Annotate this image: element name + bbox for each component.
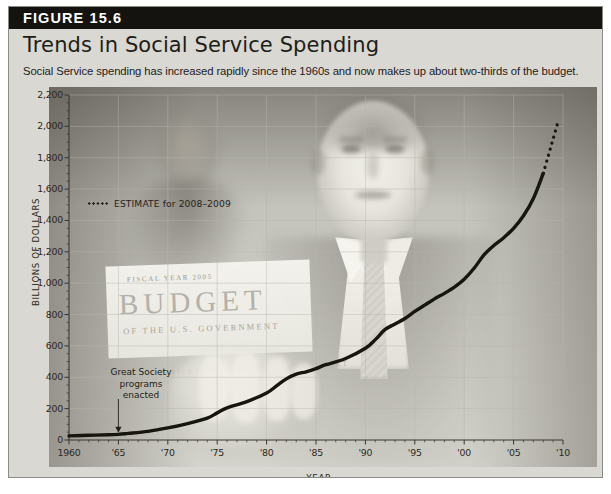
y-axis-tick-label: 2,200 <box>15 89 63 100</box>
x-axis-tick-label: '85 <box>294 447 338 458</box>
y-axis-tick-label: 0 <box>15 434 63 445</box>
figure-card: FISCAL YEAR 2005 BUDGET OF THE U.S. GOVE… <box>8 6 603 478</box>
x-axis-tick-label: '95 <box>393 447 437 458</box>
page-title: Trends in Social Service Spending <box>23 33 379 57</box>
x-axis-tick-label: '10 <box>541 447 585 458</box>
y-axis-tick-label: 1,800 <box>15 152 63 163</box>
photo-ear-left <box>311 149 325 175</box>
estimate-dotted-line-swatch <box>87 202 109 205</box>
x-axis-tick-label: '75 <box>195 447 239 458</box>
y-axis-tick-label: 2,000 <box>15 120 63 131</box>
annotation-line-3: enacted <box>95 390 187 402</box>
y-axis-tick-label: 200 <box>15 403 63 414</box>
background-photo: FISCAL YEAR 2005 BUDGET OF THE U.S. GOVE… <box>49 87 597 467</box>
photo-brow-left <box>339 137 363 142</box>
y-axis-tick-label: 600 <box>15 340 63 351</box>
photo-mouth <box>355 191 391 199</box>
photo-nose <box>367 153 379 179</box>
x-axis-tick-label: '05 <box>492 447 536 458</box>
figure-number-bar: FIGURE 15.6 <box>9 7 603 29</box>
photo-book-budget-text: BUDGET <box>118 282 309 323</box>
x-axis-tick-label: '65 <box>96 447 140 458</box>
annotation-line-1: Great Society <box>95 367 187 379</box>
photo-finger-2 <box>231 353 261 423</box>
photo-hair <box>319 93 427 151</box>
photo-eye-left <box>341 145 361 153</box>
great-society-annotation: Great Society programs enacted <box>95 367 187 402</box>
photo-brow-right <box>383 137 407 142</box>
x-axis-tick-label: '80 <box>245 447 289 458</box>
x-axis-tick-label: '70 <box>146 447 190 458</box>
x-axis-tick-label: '00 <box>442 447 486 458</box>
x-axis-title: YEAR <box>259 473 379 478</box>
photo-finger-3 <box>263 357 291 421</box>
photo-finger-4 <box>291 363 317 419</box>
x-axis-tick-label: '90 <box>343 447 387 458</box>
y-axis-tick-label: 400 <box>15 371 63 382</box>
photo-finger-1 <box>199 355 229 421</box>
photo-background-person-head <box>157 111 219 189</box>
chart-legend: ESTIMATE for 2008–2009 <box>87 198 231 209</box>
photo-ear-right <box>421 149 435 175</box>
legend-estimate-label: ESTIMATE for 2008–2009 <box>114 198 231 209</box>
figure-container: FISCAL YEAR 2005 BUDGET OF THE U.S. GOVE… <box>0 0 611 494</box>
annotation-line-2: programs <box>95 379 187 391</box>
photo-eye-right <box>385 145 405 153</box>
y-axis-title: BILLIONS OF DOLLARS <box>31 187 41 317</box>
page-subtitle: Social Service spending has increased ra… <box>23 65 578 77</box>
figure-number-label: FIGURE 15.6 <box>23 10 122 26</box>
x-axis-tick-label: 1960 <box>47 447 91 458</box>
